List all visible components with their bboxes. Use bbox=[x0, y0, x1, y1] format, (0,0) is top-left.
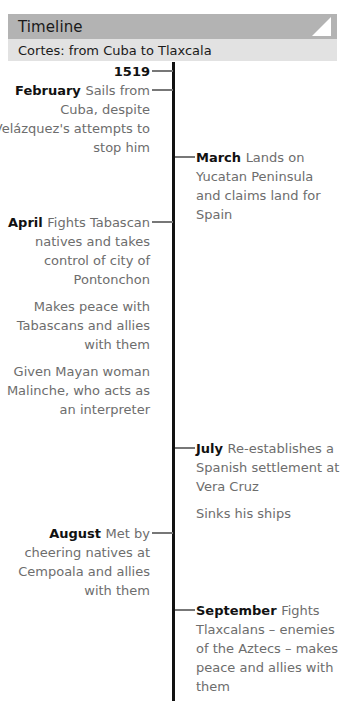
timeline-entry-paragraph: Makes peace with Tabascans and allies wi… bbox=[0, 297, 150, 354]
timeline-tick bbox=[152, 89, 173, 91]
timeline-header: Timeline Cortes: from Cuba to Tlaxcala bbox=[8, 14, 337, 61]
folded-corner-triangle-icon bbox=[312, 17, 331, 36]
timeline-tick bbox=[175, 156, 195, 158]
timeline-entry-september: September Fights Tlaxcalans – enemies of… bbox=[196, 601, 341, 696]
timeline-entry-label: March bbox=[196, 150, 246, 165]
timeline-entry-paragraph: April Fights Tabascan natives and takes … bbox=[0, 213, 150, 289]
timeline-entry-paragraph: March Lands on Yucatan Peninsula and cla… bbox=[196, 148, 341, 224]
timeline-entry-august: August Met by cheering natives at Cempoa… bbox=[0, 524, 150, 600]
timeline-tick bbox=[175, 447, 195, 449]
timeline-entry-label: August bbox=[49, 526, 105, 541]
timeline-year-label: 1519 bbox=[0, 62, 150, 81]
timeline-entry-paragraph: Given Mayan woman Malinche, who acts as … bbox=[0, 362, 150, 419]
timeline-tick bbox=[152, 221, 173, 223]
title-bar: Timeline bbox=[8, 14, 337, 39]
timeline-entry-paragraph: Sinks his ships bbox=[196, 504, 341, 523]
timeline-entry-march: March Lands on Yucatan Peninsula and cla… bbox=[196, 148, 341, 224]
subtitle-bar: Cortes: from Cuba to Tlaxcala bbox=[8, 39, 337, 61]
timeline-entry-label: February bbox=[15, 83, 85, 98]
page-title: Timeline bbox=[8, 18, 83, 36]
timeline-tick bbox=[175, 609, 195, 611]
timeline-tick bbox=[152, 532, 173, 534]
timeline-entry-paragraph: July Re-establishes a Spanish settlement… bbox=[196, 439, 341, 496]
timeline-entry-paragraph: February Sails from Cuba, despite Velázq… bbox=[0, 81, 150, 157]
timeline-tick bbox=[152, 70, 173, 72]
timeline-entry-july: July Re-establishes a Spanish settlement… bbox=[196, 439, 341, 523]
timeline-entry-paragraph: August Met by cheering natives at Cempoa… bbox=[0, 524, 150, 600]
timeline-entry-paragraph: September Fights Tlaxcalans – enemies of… bbox=[196, 601, 341, 696]
timeline-entry-april: April Fights Tabascan natives and takes … bbox=[0, 213, 150, 419]
timeline-entry-february: February Sails from Cuba, despite Velázq… bbox=[0, 81, 150, 157]
timeline-entry-label: September bbox=[196, 603, 281, 618]
page-subtitle: Cortes: from Cuba to Tlaxcala bbox=[8, 43, 212, 58]
timeline-entry-label: July bbox=[196, 441, 228, 456]
timeline-entry-label: April bbox=[8, 215, 47, 230]
timeline-page: Timeline Cortes: from Cuba to Tlaxcala 1… bbox=[0, 0, 345, 715]
